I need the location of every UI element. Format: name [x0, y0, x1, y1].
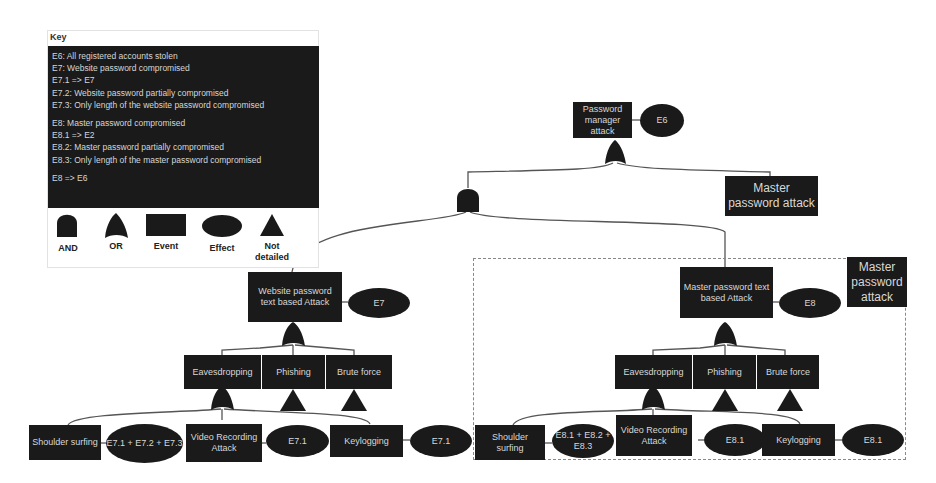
legend-or-label: OR [104, 241, 128, 252]
effect-ellipse-icon [202, 215, 242, 237]
key-line: E8.2: Master password partially compromi… [52, 141, 315, 153]
key-line: E8.1 => E2 [52, 129, 315, 141]
event-website-video-recording: Video Recording Attack [186, 424, 262, 462]
legend-shapes [48, 211, 320, 241]
key-line: E7.2: Website password partially comprom… [52, 87, 315, 99]
and-gate-icon [57, 215, 77, 237]
event-password-manager-attack: Password manager attack [573, 102, 632, 138]
effect-e6: E6 [640, 104, 684, 137]
event-website-keylogging: Keylogging [330, 425, 403, 457]
event-master-video-recording: Video Recording Attack [616, 415, 692, 456]
event-master-eavesdropping: Eavesdropping [615, 355, 692, 389]
effect-website-keylogging: E7.1 [410, 425, 472, 457]
key-line: E7.1 => E7 [52, 74, 315, 86]
or-gate-icon [105, 213, 128, 238]
effect-master-shoulder-surfing: E8.1 + E8.2 + E8.3 [552, 424, 614, 458]
key-title: Key [50, 32, 67, 42]
event-website-brute-force: Brute force [326, 355, 392, 389]
event-master-keylogging: Keylogging [762, 424, 835, 456]
effect-master-keylogging: E8.1 [842, 424, 904, 456]
legend-and-label: AND [56, 243, 80, 254]
event-master-password-attack: Master password text based Attack [680, 267, 773, 318]
event-rectangle-icon [146, 214, 186, 236]
effect-e8: E8 [779, 288, 841, 318]
effect-website-shoulder-surfing: E7.1 + E7.2 + E7.3 [106, 424, 183, 463]
event-website-eavesdropping: Eavesdropping [184, 355, 261, 389]
event-master-shoulder-surfing: Shoulder surfing [475, 425, 545, 460]
event-master-phishing: Phishing [693, 355, 756, 389]
event-website-shoulder-surfing: Shoulder surfing [29, 425, 101, 460]
event-website-password-attack: Website password text based Attack [248, 272, 342, 322]
key-line: E8: Master password compromised [52, 117, 315, 129]
group-label-master-password-attack: Master password attack [847, 257, 907, 307]
and-gate-icon [457, 189, 479, 212]
key-line: E8.3: Only length of the master password… [52, 154, 315, 166]
key-line: E8 => E6 [52, 172, 315, 184]
key-line: E7.3: Only length of the website passwor… [52, 99, 315, 111]
effect-website-video-recording: E7.1 [266, 425, 329, 457]
key-panel: Key E6: All registered accounts stolen E… [47, 30, 319, 268]
effect-e7: E7 [348, 288, 410, 318]
legend-event-label: Event [144, 241, 188, 252]
key-line: E6: All registered accounts stolen [52, 50, 315, 62]
effect-master-video-recording: E8.1 [704, 424, 766, 456]
key-line: E7: Website password compromised [52, 62, 315, 74]
key-definitions: E6: All registered accounts stolen E7: W… [48, 46, 319, 208]
event-master-password-attack-ref: Master password attack [725, 176, 818, 216]
event-master-brute-force: Brute force [757, 355, 819, 389]
legend-effect-label: Effect [200, 243, 244, 254]
event-website-phishing: Phishing [262, 355, 325, 389]
legend-not-detailed-label: Not detailed [254, 241, 290, 263]
not-detailed-triangle-icon [260, 214, 284, 236]
